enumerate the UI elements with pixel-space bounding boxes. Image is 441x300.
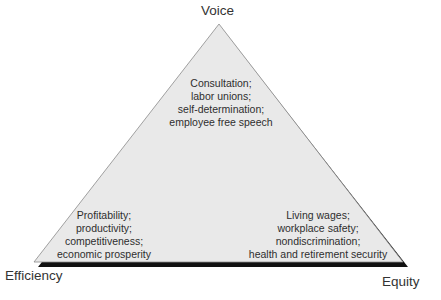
equity-line: Living wages; xyxy=(248,209,388,222)
efficiency-text-block: Profitability; productivity; competitive… xyxy=(54,209,154,261)
voice-line: self-determination; xyxy=(161,103,281,116)
voice-line: labor unions; xyxy=(161,90,281,103)
voice-line: employee free speech xyxy=(161,116,281,129)
efficiency-line: productivity; xyxy=(54,222,154,235)
voice-line: Consultation; xyxy=(161,77,281,90)
vertex-label-voice: Voice xyxy=(201,3,234,18)
voice-text-block: Consultation; labor unions; self-determi… xyxy=(161,77,281,129)
equity-line: workplace safety; xyxy=(248,222,388,235)
equity-text-block: Living wages; workplace safety; nondiscr… xyxy=(248,209,388,261)
vertex-label-equity: Equity xyxy=(382,274,420,289)
equity-line: health and retirement security xyxy=(248,248,388,261)
efficiency-line: Profitability; xyxy=(54,209,154,222)
equity-line: nondiscrimination; xyxy=(248,235,388,248)
vertex-label-efficiency: Efficiency xyxy=(5,268,63,283)
efficiency-line: economic prosperity xyxy=(54,248,154,261)
efficiency-line: competitiveness; xyxy=(54,235,154,248)
